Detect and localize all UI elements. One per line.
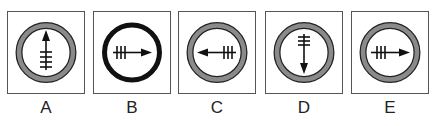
option-c-box[interactable] [178,11,256,94]
ring-arrow-right-icon [94,12,170,93]
ring-arrow-right-icon [352,12,428,93]
option-e-box[interactable] [351,11,429,94]
option-d-box[interactable] [265,11,343,94]
option-c[interactable]: C [178,0,256,126]
option-d-label: D [265,98,343,118]
option-c-label: C [178,98,256,118]
option-e[interactable]: E [351,0,429,126]
option-d[interactable]: D [265,0,343,126]
ring-arrow-left-icon [179,12,255,93]
ring-arrow-down-icon [266,12,342,93]
option-a-box[interactable] [7,11,85,94]
ring-arrow-up-icon [8,12,84,93]
option-e-label: E [351,98,429,118]
option-a-label: A [7,98,85,118]
option-b-box[interactable] [93,11,171,94]
option-b-label: B [93,98,171,118]
option-a[interactable]: A [7,0,85,126]
option-b[interactable]: B [93,0,171,126]
